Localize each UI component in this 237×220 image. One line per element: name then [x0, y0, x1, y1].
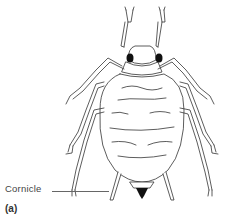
left-eye [127, 54, 134, 63]
cauda [136, 188, 148, 199]
cornicle-label: Cornicle [5, 183, 41, 194]
right-eye [156, 54, 163, 63]
panel-label: (a) [5, 203, 17, 214]
cornicle-leader-line [52, 191, 109, 192]
